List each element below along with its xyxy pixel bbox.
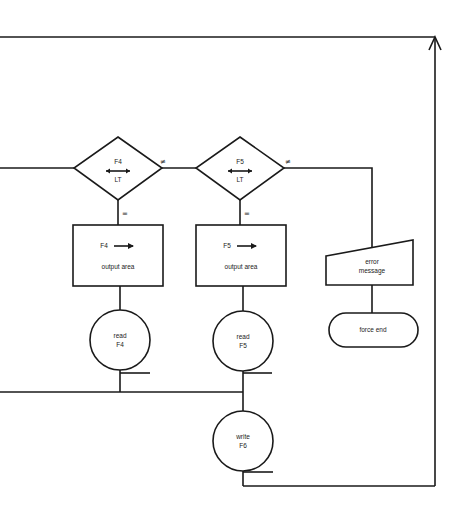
svg-text:F4: F4 — [100, 242, 108, 249]
svg-text:≠: ≠ — [160, 158, 166, 166]
write-f6-io: write F6 — [213, 411, 273, 472]
svg-text:read: read — [236, 333, 249, 340]
svg-text:output area: output area — [225, 263, 258, 271]
process-f4-output-area: F4 output area — [73, 225, 163, 286]
svg-text:write: write — [235, 433, 250, 440]
decision-f4-lt: F4 LT ≠ = — [74, 137, 166, 218]
svg-text:≠: ≠ — [285, 158, 291, 166]
flowchart-canvas: F4 LT ≠ = F5 LT ≠ = F4 output area — [0, 0, 465, 518]
error-message-manual-input: error message — [326, 240, 413, 285]
svg-text:LT: LT — [236, 176, 243, 183]
svg-text:output area: output area — [102, 263, 135, 271]
svg-text:error: error — [365, 258, 380, 265]
svg-text:=: = — [244, 210, 250, 218]
force-end-terminator: force end — [329, 313, 418, 347]
svg-text:F5: F5 — [236, 158, 244, 165]
svg-text:F6: F6 — [239, 442, 247, 449]
svg-text:=: = — [122, 210, 128, 218]
svg-text:F4: F4 — [116, 341, 124, 348]
decision-f5-lt: F5 LT ≠ = — [196, 137, 291, 218]
svg-text:read: read — [113, 332, 126, 339]
svg-text:message: message — [359, 267, 386, 275]
svg-text:force end: force end — [359, 326, 386, 333]
svg-text:LT: LT — [114, 176, 121, 183]
process-f5-output-area: F5 output area — [196, 225, 286, 286]
svg-text:F5: F5 — [223, 242, 231, 249]
svg-text:F4: F4 — [114, 158, 122, 165]
read-f5-io: read F5 — [213, 311, 273, 373]
svg-text:F5: F5 — [239, 342, 247, 349]
d2-error-connector — [284, 168, 372, 248]
read-f4-io: read F4 — [90, 310, 150, 373]
